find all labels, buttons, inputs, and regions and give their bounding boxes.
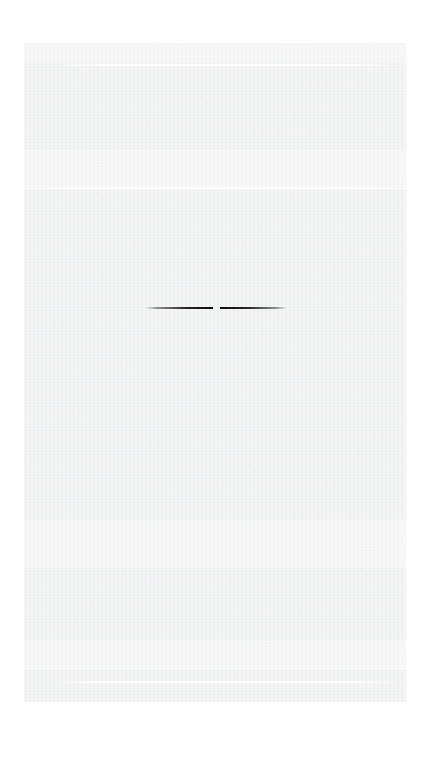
horizontal-rule-top	[62, 64, 392, 66]
horizontal-rule-dark	[145, 305, 287, 311]
horizontal-rule-bottom	[60, 681, 392, 683]
wash-band	[24, 520, 406, 568]
wash-band	[24, 43, 406, 63]
rule-dark-segment-left	[145, 307, 213, 309]
wash-band	[24, 640, 406, 670]
ghost-text-band-lower	[34, 555, 394, 567]
rule-dark-segment-right	[220, 307, 287, 309]
wash-band	[24, 150, 406, 190]
ghost-text-band-top	[50, 50, 390, 65]
ghost-text-band-upper	[30, 95, 390, 107]
horizontal-rule-middle	[40, 187, 400, 189]
document-page	[24, 43, 406, 702]
ghost-text-band-bottom	[44, 655, 394, 667]
paper-texture	[24, 43, 406, 702]
scanned-page-root	[0, 0, 435, 762]
